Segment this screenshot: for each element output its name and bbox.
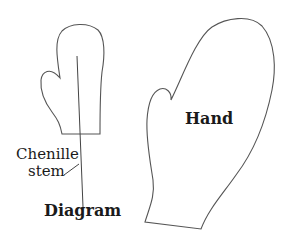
diagram-caption: Diagram bbox=[44, 201, 121, 220]
callout-label-line1: Chenille bbox=[16, 145, 79, 163]
chenille-stem-line bbox=[77, 56, 83, 207]
callout-pointer bbox=[64, 164, 79, 175]
hand-label: Hand bbox=[185, 109, 233, 128]
small-mitten-outline bbox=[41, 24, 104, 134]
mitten-diagram: Chenille stem Diagram Hand bbox=[0, 0, 286, 244]
callout-label-line2: stem bbox=[28, 162, 65, 180]
